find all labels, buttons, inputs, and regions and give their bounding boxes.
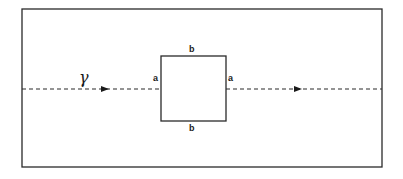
diagram-canvas (0, 0, 403, 179)
arrow-right-icon (101, 86, 109, 92)
side-label-left: a (153, 74, 158, 83)
inner-square (161, 56, 226, 121)
gamma-label: γ (79, 70, 89, 86)
arrow-right-icon (294, 86, 302, 92)
side-label-bottom: b (189, 124, 195, 133)
outer-frame (22, 9, 382, 167)
side-label-top: b (189, 45, 195, 54)
side-label-right: a (228, 74, 233, 83)
